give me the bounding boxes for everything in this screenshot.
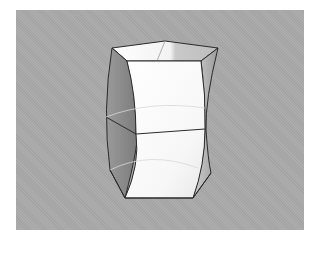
- top-face: [112, 41, 218, 61]
- twisted-prism-figure: [0, 0, 310, 253]
